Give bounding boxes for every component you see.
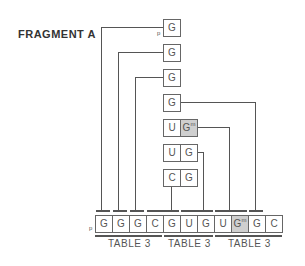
stack-ug-g: G — [180, 144, 198, 162]
connector — [181, 102, 256, 103]
connector — [101, 27, 102, 211]
phosphate-prefix: p — [89, 225, 92, 231]
diagram-title: FRAGMENT A — [18, 28, 96, 40]
bracket-bar — [113, 210, 127, 212]
table-label-2: TABLE 3 — [168, 238, 211, 249]
bracket-bar — [249, 210, 263, 212]
seq-nt-4: C — [146, 215, 164, 233]
seq-nt-10: G — [248, 215, 266, 233]
connector — [118, 52, 163, 53]
seq-nt-11: C — [265, 215, 283, 233]
connector — [135, 77, 136, 211]
phosphate-prefix: p — [157, 30, 160, 36]
connector — [198, 127, 230, 128]
stack-ugm-gm: Gm — [180, 119, 198, 137]
seq-nt-7: G — [197, 215, 215, 233]
connector — [101, 27, 163, 28]
seq-nt-9: Gm — [231, 215, 249, 233]
table-bar — [164, 235, 213, 237]
bracket-bar — [147, 210, 179, 212]
connector — [229, 127, 230, 211]
stack-g-4: G — [163, 94, 181, 112]
stack-cg-c: C — [163, 169, 181, 187]
connector — [203, 152, 204, 211]
fragment-diagram: FRAGMENT A p G G G G U Gm U G C G p G G … — [0, 0, 305, 266]
table-label-3: TABLE 3 — [228, 238, 271, 249]
stack-ugm-u: U — [163, 119, 181, 137]
bracket-bar — [215, 210, 247, 212]
bracket-bar — [181, 210, 213, 212]
connector — [135, 77, 163, 78]
stack-g-3: G — [163, 69, 181, 87]
seq-nt-1: G — [95, 215, 113, 233]
table-label-1: TABLE 3 — [108, 238, 151, 249]
seq-nt-5: G — [163, 215, 181, 233]
seq-nt-3: G — [129, 215, 147, 233]
bracket-bar — [96, 210, 110, 212]
seq-nt-2: G — [112, 215, 130, 233]
connector — [255, 102, 256, 211]
connector — [118, 52, 119, 211]
stack-g-2: G — [163, 44, 181, 62]
stack-cg-g: G — [180, 169, 198, 187]
table-bar — [95, 235, 162, 237]
connector — [171, 187, 172, 211]
table-bar — [215, 235, 282, 237]
seq-nt-8: U — [214, 215, 232, 233]
stack-g-1: G — [163, 19, 181, 37]
seq-nt-6: U — [180, 215, 198, 233]
bracket-bar — [130, 210, 144, 212]
stack-ug-u: U — [163, 144, 181, 162]
